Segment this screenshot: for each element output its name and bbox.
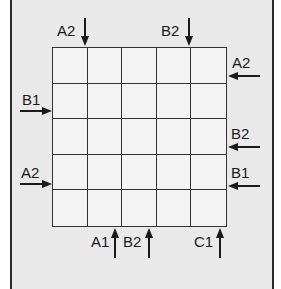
grid-cell[interactable]	[157, 155, 192, 191]
grid-cell[interactable]	[88, 119, 123, 155]
arrow-left-icon	[228, 181, 262, 191]
grid-cell[interactable]	[157, 190, 192, 226]
clue-right-row1-label: A2	[232, 55, 250, 70]
clue-top-col4-label: B2	[161, 23, 179, 38]
grid-cell[interactable]	[191, 190, 226, 226]
arrow-down-icon	[184, 18, 194, 46]
grid-cell[interactable]	[122, 155, 157, 191]
grid-cell[interactable]	[191, 119, 226, 155]
clue-bottom-col2-label: A1	[91, 234, 109, 249]
arrow-right-icon	[18, 179, 52, 189]
clue-left-row4-label: A2	[21, 165, 39, 180]
clue-bottom-col3-label: B2	[123, 234, 141, 249]
arrow-up-icon	[110, 228, 120, 258]
grid-cell[interactable]	[53, 119, 88, 155]
grid-cell[interactable]	[191, 84, 226, 120]
grid-cell[interactable]	[88, 84, 123, 120]
grid-cell[interactable]	[53, 84, 88, 120]
grid-cell[interactable]	[157, 48, 192, 84]
puzzle-grid	[52, 47, 227, 227]
arrow-up-icon	[144, 228, 154, 258]
grid-cell[interactable]	[122, 48, 157, 84]
clue-top-col1-label: A2	[57, 23, 75, 38]
clue-right-row4-label: B1	[231, 165, 249, 180]
grid-cell[interactable]	[191, 48, 226, 84]
grid-cell[interactable]	[53, 190, 88, 226]
arrow-up-icon	[215, 228, 225, 258]
grid-cell[interactable]	[53, 155, 88, 191]
grid-cell[interactable]	[122, 190, 157, 226]
arrow-right-icon	[18, 106, 52, 116]
grid-cell[interactable]	[191, 155, 226, 191]
arrow-left-icon	[228, 71, 262, 81]
grid-cell[interactable]	[122, 119, 157, 155]
arrow-down-icon	[80, 18, 90, 46]
grid-cell[interactable]	[122, 84, 157, 120]
grid-cell[interactable]	[88, 48, 123, 84]
arrow-left-icon	[228, 142, 262, 152]
grid-cell[interactable]	[157, 84, 192, 120]
grid-cell[interactable]	[88, 155, 123, 191]
clue-left-row2-label: B1	[22, 92, 40, 107]
grid-cell[interactable]	[88, 190, 123, 226]
clue-right-row3-label: B2	[231, 126, 249, 141]
grid-cell[interactable]	[53, 48, 88, 84]
clue-bottom-col5-label: C1	[194, 234, 213, 249]
grid-cell[interactable]	[157, 119, 192, 155]
